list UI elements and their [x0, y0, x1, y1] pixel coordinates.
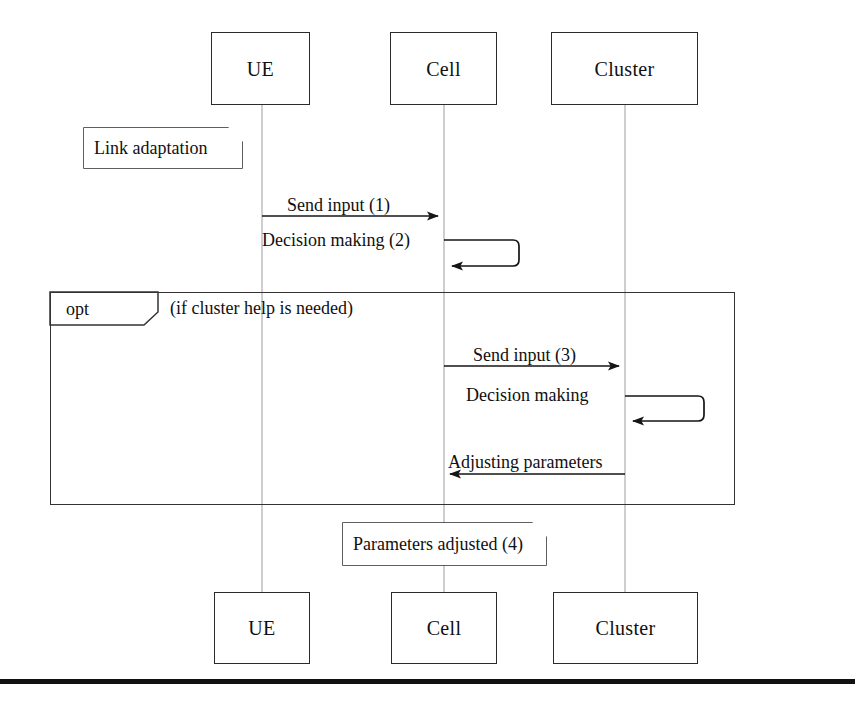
lifeline-head-cell[interactable]: Cell — [390, 32, 497, 105]
fragment-opt-operator-label: opt — [66, 300, 89, 318]
message-label-send-input-1: Send input (1) — [287, 196, 390, 214]
message-label-send-input-3: Send input (3) — [473, 346, 576, 364]
lifeline-head-ue[interactable]: UE — [211, 32, 310, 105]
lifeline-head-cell-label: Cell — [426, 59, 461, 79]
fragment-opt-guard-label: (if cluster help is needed) — [170, 299, 353, 317]
sequence-diagram: UE Cell Cluster Link adaptation Send inp… — [0, 0, 855, 701]
lifeline-foot-cluster-label: Cluster — [596, 618, 656, 638]
bottom-divider-rule — [0, 679, 855, 684]
lifeline-foot-cluster[interactable]: Cluster — [553, 592, 698, 664]
message-selfloop-decision-making-2 — [444, 240, 519, 266]
lifeline-foot-cell-label: Cell — [427, 618, 462, 638]
message-label-decision-making: Decision making — [466, 386, 588, 404]
message-label-adjusting-parameters: Adjusting parameters — [448, 453, 602, 471]
note-link-adaptation[interactable]: Link adaptation — [84, 128, 242, 168]
note-parameters-adjusted-label: Parameters adjusted (4) — [353, 534, 523, 555]
note-link-adaptation-label: Link adaptation — [94, 138, 207, 159]
lifeline-foot-ue[interactable]: UE — [214, 592, 310, 664]
lifeline-foot-cell[interactable]: Cell — [391, 592, 497, 664]
note-parameters-adjusted[interactable]: Parameters adjusted (4) — [343, 523, 546, 565]
message-label-decision-making-2: Decision making (2) — [262, 231, 410, 249]
lifeline-head-ue-label: UE — [247, 59, 274, 79]
lifeline-foot-ue-label: UE — [248, 618, 275, 638]
lifeline-head-cluster-label: Cluster — [595, 59, 655, 79]
lifeline-head-cluster[interactable]: Cluster — [551, 32, 698, 105]
fragment-opt — [50, 292, 735, 505]
